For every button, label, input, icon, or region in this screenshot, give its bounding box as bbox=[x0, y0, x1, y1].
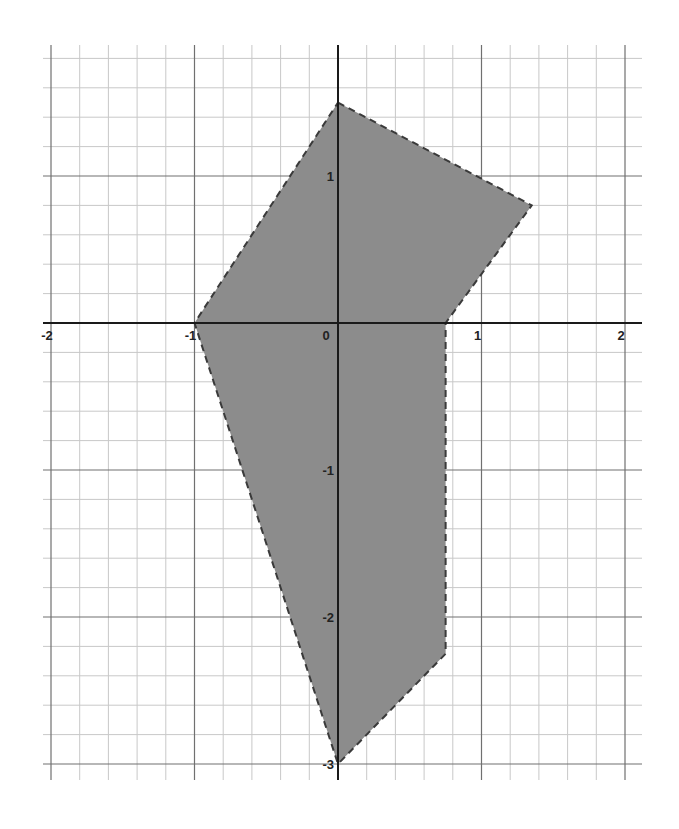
x-tick-label: 0 bbox=[322, 328, 329, 343]
x-tick-label: -2 bbox=[41, 328, 53, 343]
x-tick-label: 1 bbox=[474, 328, 481, 343]
y-tick-label: -1 bbox=[322, 463, 334, 478]
coordinate-plane: -2-1012 1-1-2-3 bbox=[0, 0, 679, 829]
y-tick-label: 1 bbox=[327, 169, 334, 184]
x-tick-label: 2 bbox=[617, 328, 624, 343]
y-tick-label: -3 bbox=[322, 757, 334, 772]
y-tick-label: -2 bbox=[322, 610, 334, 625]
x-tick-label: -1 bbox=[185, 328, 197, 343]
